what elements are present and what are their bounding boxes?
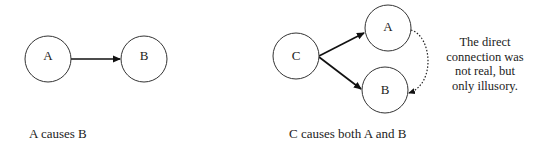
node-b-left-label: B bbox=[140, 48, 149, 63]
node-a-left-label: A bbox=[43, 48, 53, 63]
node-b-right-label: B bbox=[381, 82, 390, 97]
caption-right: C causes both A and B bbox=[289, 126, 406, 142]
node-c-label: C bbox=[292, 48, 301, 63]
node-a-right-label: A bbox=[383, 19, 393, 34]
note-line-3: not real, but bbox=[440, 64, 530, 79]
caption-left: A causes B bbox=[29, 126, 87, 142]
illusory-connection-note: The direct connection was not real, but … bbox=[440, 35, 530, 93]
note-line-2: connection was bbox=[440, 50, 530, 65]
edge-c-to-a bbox=[319, 33, 364, 56]
edge-c-to-b bbox=[319, 57, 361, 89]
diagram-a-causes-b: A B bbox=[25, 36, 167, 82]
note-line-1: The direct bbox=[440, 35, 530, 50]
edge-a-to-b-illusory bbox=[409, 30, 428, 93]
diagram-c-causes-a-and-b: C A B bbox=[273, 5, 428, 113]
note-line-4: only illusory. bbox=[440, 79, 530, 94]
